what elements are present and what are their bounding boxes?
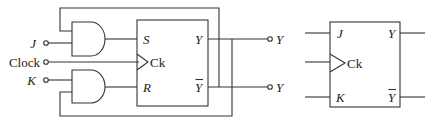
jk-circuit: J Clock K S Ck R Y Y Y Y [9,8,285,116]
output-ybar-label: Y [276,80,285,95]
jk-flipflop-symbol: J Ck K Y Y [305,22,425,107]
pin-ck-label: Ck [150,55,166,70]
symbol-clock-triangle-icon [330,54,345,72]
pin-ybar-label: Y [195,80,204,95]
output-ybar-terminal [268,85,273,90]
symbol-pin-ck-label: Ck [347,56,363,71]
and-gate-1 [72,22,105,56]
pin-s-label: S [143,32,150,47]
input-clock-label: Clock [9,55,41,70]
and-gate-2 [72,70,105,103]
pin-r-label: R [142,80,151,95]
input-clock-terminal [44,60,49,65]
output-y-terminal [268,37,273,42]
input-k-terminal [44,78,49,83]
feedback-y-to-and2 [60,39,232,116]
symbol-pin-y-label: Y [388,26,397,41]
symbol-pin-j-label: J [337,26,344,41]
pin-y-label: Y [195,32,204,47]
input-k-label: K [26,73,37,88]
symbol-pin-k-label: K [335,90,346,105]
symbol-pin-ybar-label: Y [388,90,397,105]
input-j-terminal [44,41,49,46]
output-y-label: Y [276,32,285,47]
input-j-label: J [30,36,37,51]
jk-flipflop-diagram: J Clock K S Ck R Y Y Y Y [0,0,438,122]
